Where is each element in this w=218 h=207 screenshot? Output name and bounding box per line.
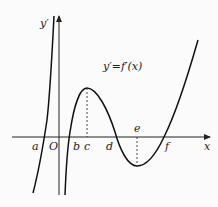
- curve-left-branch: [33, 16, 54, 193]
- origin-label: O: [49, 140, 58, 153]
- derivative-graph: y′ y′=f′(x) x O a b c d e f: [0, 0, 218, 207]
- point-b-label: b: [73, 140, 80, 153]
- x-axis-label: x: [204, 140, 211, 153]
- point-c-label: c: [84, 140, 90, 153]
- point-e-label: e: [134, 122, 141, 135]
- point-d-label: d: [106, 140, 113, 153]
- function-label: y′=f′(x): [102, 60, 142, 73]
- point-f-label: f: [164, 140, 171, 153]
- y-axis-label: y′: [39, 17, 49, 30]
- point-a-label: a: [32, 140, 39, 153]
